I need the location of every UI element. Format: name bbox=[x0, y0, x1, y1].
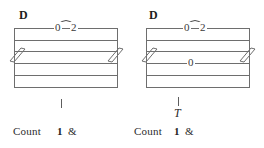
tab-staff-left: 0 2 bbox=[14, 28, 118, 88]
count-label-left: Count bbox=[13, 126, 41, 137]
staff-break-mark-right bbox=[238, 44, 254, 62]
staff-break-mark-left bbox=[140, 44, 156, 62]
staff-line-5 bbox=[146, 75, 250, 76]
rhythm-stem-tick-right bbox=[178, 97, 179, 106]
staff-line-1 bbox=[146, 28, 250, 29]
fret-number-left-2: 2 bbox=[70, 22, 78, 33]
staff-line-5 bbox=[14, 75, 118, 76]
rhythm-stem-tick-left bbox=[61, 99, 62, 108]
staff-line-1 bbox=[14, 28, 118, 29]
fret-number-right-mid-0: 0 bbox=[187, 57, 195, 68]
count-label-right: Count bbox=[134, 126, 162, 137]
staff-break-mark-left bbox=[8, 44, 24, 62]
staff-line-6 bbox=[146, 87, 250, 88]
fret-number-left-0: 0 bbox=[54, 22, 62, 33]
tablature-figure: D bbox=[0, 0, 264, 148]
chord-symbol-right: D bbox=[149, 9, 158, 21]
staff-line-2 bbox=[14, 40, 118, 41]
count-beat-and-left: & bbox=[68, 126, 77, 137]
fret-number-right-top-0: 0 bbox=[183, 22, 191, 33]
staff-line-2 bbox=[146, 40, 250, 41]
technique-letter-thumb: T bbox=[174, 107, 181, 119]
tab-panel-right: D bbox=[132, 0, 264, 148]
staff-break-mark-right bbox=[106, 44, 122, 62]
staff-line-6 bbox=[14, 87, 118, 88]
tab-staff-right: 0 2 0 bbox=[146, 28, 250, 88]
count-beat-1-right: 1 bbox=[174, 126, 180, 137]
count-beat-1-left: 1 bbox=[57, 126, 63, 137]
count-beat-and-right: & bbox=[185, 126, 194, 137]
chord-symbol-left: D bbox=[19, 9, 28, 21]
fret-number-right-top-2: 2 bbox=[199, 22, 207, 33]
tab-panel-left: D bbox=[0, 0, 132, 148]
